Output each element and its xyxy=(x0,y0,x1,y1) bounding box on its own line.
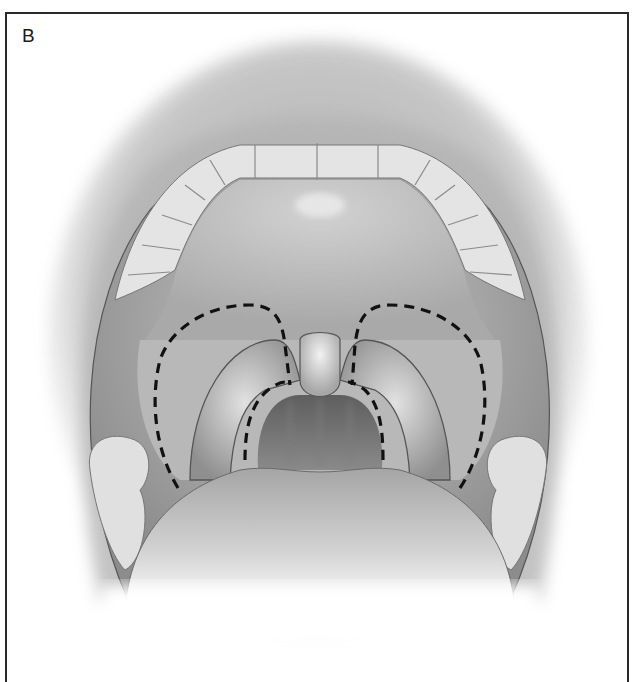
soft-palate xyxy=(137,333,502,481)
